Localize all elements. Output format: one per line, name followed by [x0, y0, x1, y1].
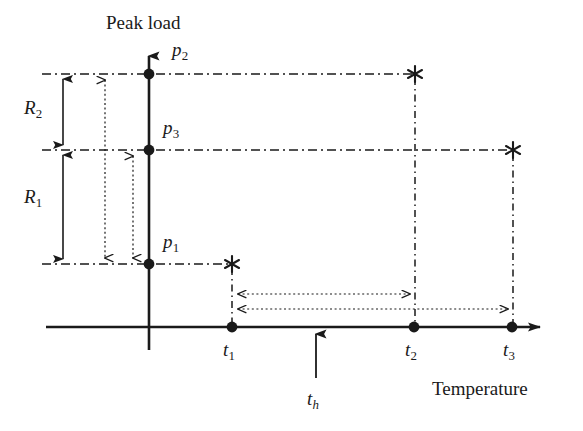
label-p3-sub: 3 — [173, 126, 179, 141]
label-th-sub: h — [313, 397, 319, 412]
marker-star-t3-p3 — [506, 142, 520, 158]
label-p1-base: p — [163, 231, 173, 252]
label-R1-sub: 1 — [36, 195, 42, 210]
label-t1: t1 — [223, 339, 235, 361]
y-axis-title: Peak load — [106, 12, 180, 34]
label-p2-base: p — [172, 39, 182, 60]
label-t2-base: t — [405, 339, 410, 360]
label-p2-sub: 2 — [182, 48, 188, 63]
marker-dot-p1 — [144, 259, 155, 270]
label-R2-base: R — [24, 97, 36, 118]
label-p1-sub: 1 — [173, 240, 179, 255]
diagram-canvas — [0, 0, 583, 431]
label-R2-sub: 2 — [36, 106, 42, 121]
label-p3: p3 — [163, 117, 179, 139]
label-t3-base: t — [503, 339, 508, 360]
marker-dot-t2 — [409, 322, 420, 333]
label-R1: R1 — [24, 186, 42, 208]
label-th: th — [307, 388, 319, 410]
label-t1-base: t — [223, 339, 228, 360]
label-t1-sub: 1 — [229, 348, 235, 363]
label-R2: R2 — [24, 97, 42, 119]
label-t3: t3 — [503, 339, 515, 361]
label-p3-base: p — [163, 117, 173, 138]
marker-dot-t1 — [227, 322, 238, 333]
label-p1: p1 — [163, 231, 179, 253]
marker-dot-p3 — [144, 145, 155, 156]
label-t2: t2 — [405, 339, 417, 361]
label-t2-sub: 2 — [411, 348, 417, 363]
peak-load-temperature-diagram: Peak load Temperature p2 p3 p1 R2 R1 t1 … — [0, 0, 583, 431]
marker-dot-t3 — [507, 322, 518, 333]
label-th-base: t — [307, 388, 312, 409]
label-t3-sub: 3 — [509, 348, 515, 363]
label-R1-base: R — [24, 186, 36, 207]
marker-dot-p2 — [144, 69, 155, 80]
x-axis-title: Temperature — [432, 378, 528, 400]
label-p2: p2 — [172, 39, 188, 61]
